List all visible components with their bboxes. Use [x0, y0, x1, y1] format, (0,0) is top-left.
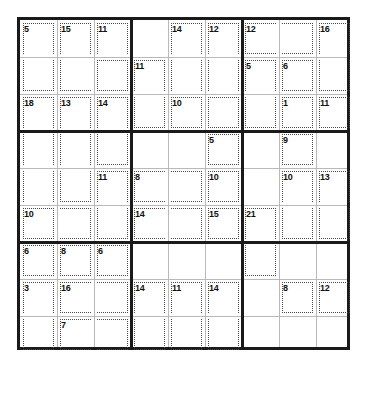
sudoku-cell-r2c6[interactable] [205, 57, 242, 94]
sudoku-cell-r3c6[interactable] [205, 94, 242, 131]
sudoku-cell-r9c9[interactable] [316, 316, 353, 353]
sudoku-cell-r1c4[interactable] [131, 20, 168, 57]
sudoku-cell-r7c2[interactable] [57, 242, 94, 279]
sudoku-cell-r3c5[interactable] [168, 94, 205, 131]
sudoku-cell-r2c4[interactable] [131, 57, 168, 94]
sudoku-cell-r2c5[interactable] [168, 57, 205, 94]
sudoku-cell-r4c4[interactable] [131, 131, 168, 168]
sudoku-cell-r2c7[interactable] [242, 57, 279, 94]
sudoku-cell-r8c1[interactable] [20, 279, 57, 316]
sudoku-cell-r6c3[interactable] [94, 205, 131, 242]
sudoku-cell-r7c7[interactable] [242, 242, 279, 279]
sudoku-cell-r5c2[interactable] [57, 168, 94, 205]
sudoku-cell-r8c7[interactable] [242, 279, 279, 316]
sudoku-cell-r4c2[interactable] [57, 131, 94, 168]
sudoku-cell-r9c2[interactable] [57, 316, 94, 353]
sudoku-cell-r3c9[interactable] [316, 94, 353, 131]
sudoku-cell-r6c2[interactable] [57, 205, 94, 242]
sudoku-cell-r4c3[interactable] [94, 131, 131, 168]
sudoku-cell-r5c6[interactable] [205, 168, 242, 205]
sudoku-cell-r4c9[interactable] [316, 131, 353, 168]
sudoku-cell-r5c9[interactable] [316, 168, 353, 205]
sudoku-cell-r1c6[interactable] [205, 20, 242, 57]
sudoku-cell-r7c1[interactable] [20, 242, 57, 279]
sudoku-cell-r5c3[interactable] [94, 168, 131, 205]
sudoku-cell-r9c6[interactable] [205, 316, 242, 353]
sudoku-cell-r3c4[interactable] [131, 94, 168, 131]
sudoku-cell-r5c7[interactable] [242, 168, 279, 205]
sudoku-cell-r7c6[interactable] [205, 242, 242, 279]
sudoku-cell-r2c1[interactable] [20, 57, 57, 94]
sudoku-cell-r7c5[interactable] [168, 242, 205, 279]
sudoku-cell-r7c9[interactable] [316, 242, 353, 279]
sudoku-cell-r3c8[interactable] [279, 94, 316, 131]
sudoku-cell-r2c9[interactable] [316, 57, 353, 94]
sudoku-cell-r3c7[interactable] [242, 94, 279, 131]
sudoku-cell-r1c8[interactable] [279, 20, 316, 57]
sudoku-cell-r5c8[interactable] [279, 168, 316, 205]
sudoku-cell-r8c4[interactable] [131, 279, 168, 316]
sudoku-cell-r6c9[interactable] [316, 205, 353, 242]
sudoku-cell-r4c7[interactable] [242, 131, 279, 168]
sudoku-cell-r7c4[interactable] [131, 242, 168, 279]
sudoku-cell-r4c6[interactable] [205, 131, 242, 168]
sudoku-cell-r9c7[interactable] [242, 316, 279, 353]
sudoku-grid[interactable]: 5151118131411141210121656111111058101415… [17, 17, 350, 350]
sudoku-cell-r8c2[interactable] [57, 279, 94, 316]
sudoku-cell-r2c8[interactable] [279, 57, 316, 94]
sudoku-cell-r6c7[interactable] [242, 205, 279, 242]
sudoku-cell-r6c1[interactable] [20, 205, 57, 242]
sudoku-cell-r1c9[interactable] [316, 20, 353, 57]
sudoku-cell-r4c1[interactable] [20, 131, 57, 168]
sudoku-cell-r4c5[interactable] [168, 131, 205, 168]
sudoku-cell-r1c5[interactable] [168, 20, 205, 57]
sudoku-cell-r4c8[interactable] [279, 131, 316, 168]
sudoku-cell-r9c8[interactable] [279, 316, 316, 353]
sudoku-cell-r5c4[interactable] [131, 168, 168, 205]
sudoku-cell-r2c2[interactable] [57, 57, 94, 94]
sudoku-cell-r6c4[interactable] [131, 205, 168, 242]
sudoku-cell-r1c3[interactable] [94, 20, 131, 57]
sudoku-cell-r8c8[interactable] [279, 279, 316, 316]
sudoku-cell-r9c4[interactable] [131, 316, 168, 353]
sudoku-cell-r6c6[interactable] [205, 205, 242, 242]
sudoku-cell-r9c5[interactable] [168, 316, 205, 353]
sudoku-cell-r5c5[interactable] [168, 168, 205, 205]
sudoku-cell-r9c3[interactable] [94, 316, 131, 353]
sudoku-cell-r6c8[interactable] [279, 205, 316, 242]
sudoku-cell-r3c1[interactable] [20, 94, 57, 131]
sudoku-cell-r8c5[interactable] [168, 279, 205, 316]
sudoku-cell-r2c3[interactable] [94, 57, 131, 94]
sudoku-cell-r9c1[interactable] [20, 316, 57, 353]
sudoku-cell-r8c3[interactable] [94, 279, 131, 316]
sudoku-cell-r7c8[interactable] [279, 242, 316, 279]
sudoku-cell-r1c7[interactable] [242, 20, 279, 57]
sudoku-cell-r3c2[interactable] [57, 94, 94, 131]
sudoku-cell-r1c1[interactable] [20, 20, 57, 57]
sudoku-cell-r1c2[interactable] [57, 20, 94, 57]
sudoku-cell-r7c3[interactable] [94, 242, 131, 279]
cells-layer[interactable] [20, 20, 347, 347]
sudoku-cell-r8c6[interactable] [205, 279, 242, 316]
sudoku-cell-r3c3[interactable] [94, 94, 131, 131]
sudoku-cell-r5c1[interactable] [20, 168, 57, 205]
sudoku-cell-r6c5[interactable] [168, 205, 205, 242]
sudoku-cell-r8c9[interactable] [316, 279, 353, 316]
killer-sudoku-puzzle: 5151118131411141210121656111111058101415… [0, 0, 369, 393]
